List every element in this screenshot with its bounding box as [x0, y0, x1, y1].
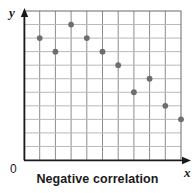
data-point: [178, 116, 184, 122]
data-point: [68, 22, 74, 28]
chart-svg: y x 0: [0, 0, 195, 193]
x-axis-arrow-icon: [182, 157, 191, 164]
data-point: [53, 49, 59, 55]
data-point: [37, 35, 43, 41]
data-point: [147, 76, 153, 82]
data-point: [100, 49, 106, 55]
data-point: [115, 62, 121, 68]
data-point: [131, 89, 137, 95]
chart-caption: Negative correlation: [0, 172, 195, 186]
y-axis-label: y: [7, 5, 15, 20]
data-point: [162, 103, 168, 109]
scatter-plot-figure: y x 0 Negative correlation: [0, 0, 195, 193]
data-point: [84, 35, 90, 41]
